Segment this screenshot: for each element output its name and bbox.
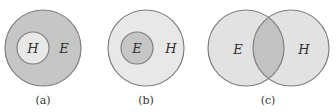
- venn-diagrams: H E (a) E H (b) E H (c): [0, 0, 336, 112]
- set-h-label: H: [26, 41, 39, 56]
- caption-a: (a): [35, 94, 50, 107]
- diagram-c: E H (c): [208, 10, 329, 107]
- set-e-label: E: [131, 41, 142, 56]
- diagram-a: H E (a): [5, 10, 81, 107]
- set-e-label: E: [232, 42, 243, 57]
- set-h-label: H: [164, 41, 177, 56]
- caption-b: (b): [138, 94, 154, 107]
- set-e-label: E: [58, 41, 69, 56]
- caption-c: (c): [261, 94, 276, 107]
- set-h-label: H: [297, 42, 310, 57]
- diagram-b: E H (b): [108, 10, 184, 107]
